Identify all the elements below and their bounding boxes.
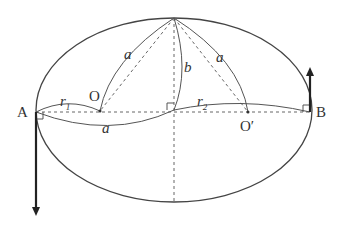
arrowhead-up-icon	[306, 67, 314, 76]
r2-subscript: 2	[203, 102, 208, 112]
label-b: b	[184, 60, 192, 75]
diagram-svg	[0, 0, 342, 237]
label-point-O: O	[89, 89, 100, 104]
focus-O-dot	[99, 110, 102, 113]
arc-a-left-upper	[100, 18, 174, 111]
label-r1: r1	[60, 94, 70, 112]
dashed-top-to-O	[100, 18, 174, 111]
right-angle-center	[167, 103, 174, 110]
focus-O-prime-dot	[247, 111, 250, 114]
r1-subscript: 1	[66, 102, 71, 112]
arrowhead-down-icon	[32, 207, 40, 216]
label-r2: r2	[197, 94, 207, 112]
label-a-bottom: a	[102, 121, 110, 136]
label-point-O-prime: O′	[240, 119, 254, 134]
label-point-B: B	[316, 105, 326, 120]
label-a-right: a	[216, 50, 224, 65]
label-point-A: A	[17, 105, 28, 120]
ellipse-orbit-diagram: A B O O′ a a b a r1 r2	[0, 0, 342, 237]
arc-b	[174, 18, 182, 110]
label-a-left: a	[124, 47, 132, 62]
